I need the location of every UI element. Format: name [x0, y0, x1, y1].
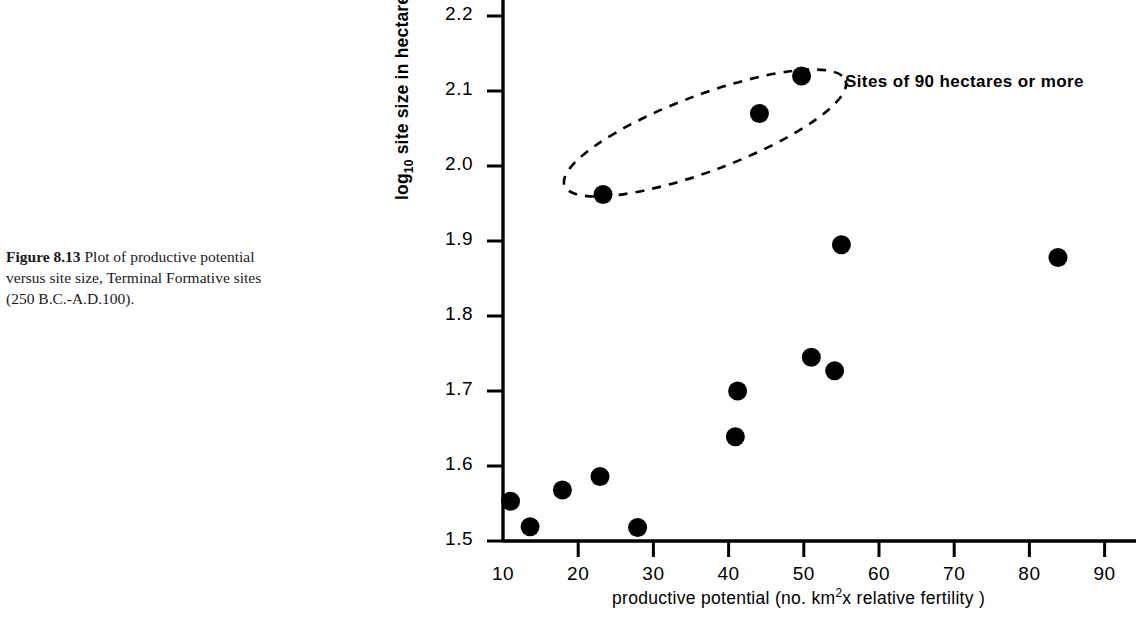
- y-axis-tick-label: 2.0: [419, 153, 473, 175]
- x-axis-tick-label: 40: [706, 563, 752, 585]
- x-axis-tick-label: 90: [1082, 563, 1128, 585]
- data-point: [832, 235, 851, 254]
- x-axis-title-before: productive potential (no. km: [612, 588, 835, 608]
- data-point: [792, 67, 811, 86]
- x-axis-title: productive potential (no. km2x relative …: [612, 586, 985, 609]
- data-point: [750, 104, 769, 123]
- y-axis-tick-label: 1.6: [419, 453, 473, 475]
- group-annotation-label: Sites of 90 hectares or more: [845, 72, 1084, 92]
- y-axis-tick-label: 2.2: [419, 3, 473, 25]
- x-axis-tick-label: 70: [931, 563, 977, 585]
- x-axis-tick-label: 20: [555, 563, 601, 585]
- x-axis-ticks: [578, 541, 1104, 557]
- data-point: [802, 348, 821, 367]
- data-point: [1048, 248, 1067, 267]
- y-axis-title-after: site size in hectares: [392, 0, 412, 159]
- x-axis-tick-label: 80: [1006, 563, 1052, 585]
- data-point: [591, 467, 610, 486]
- data-point: [628, 518, 647, 537]
- data-point: [594, 185, 613, 204]
- data-point: [728, 382, 747, 401]
- data-point: [521, 517, 540, 536]
- x-axis-title-after: x relative fertility ): [842, 588, 985, 608]
- x-axis-tick-label: 10: [480, 563, 526, 585]
- plot-canvas: [0, 0, 1143, 620]
- y-axis-title-before: log: [392, 173, 412, 200]
- y-axis-tick-label: 1.7: [419, 378, 473, 400]
- y-axis-title-subscript: 10: [402, 159, 416, 173]
- scatter-plot-figure: log10 site size in hectares productive p…: [0, 0, 1143, 620]
- x-axis-tick-label: 60: [856, 563, 902, 585]
- y-axis-tick-label: 1.9: [419, 228, 473, 250]
- data-point: [501, 492, 520, 511]
- y-axis-title: log10 site size in hectares: [392, 0, 422, 200]
- data-point: [825, 361, 844, 380]
- y-axis-ticks: [487, 16, 503, 541]
- data-point: [726, 427, 745, 446]
- data-point-group: [501, 67, 1067, 538]
- y-axis-tick-label: 1.8: [419, 303, 473, 325]
- y-axis-tick-label: 2.1: [419, 78, 473, 100]
- x-axis-tick-label: 50: [781, 563, 827, 585]
- y-axis-tick-label: 1.5: [419, 528, 473, 550]
- x-axis-tick-label: 30: [630, 563, 676, 585]
- data-point: [553, 481, 572, 500]
